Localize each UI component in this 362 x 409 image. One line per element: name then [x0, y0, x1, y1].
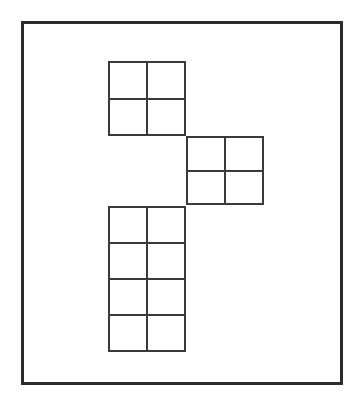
grid-cell [188, 172, 226, 206]
grid-cell [226, 138, 264, 172]
grid-cell [110, 280, 148, 316]
grid-cell [148, 100, 186, 137]
bottom-column-block [108, 206, 186, 352]
grid-cell [188, 138, 226, 172]
grid-cell [148, 244, 186, 280]
grid-cell [110, 100, 148, 137]
grid-cell [110, 208, 148, 244]
top-square-block [108, 61, 186, 136]
grid-cell [148, 280, 186, 316]
grid-cell [148, 208, 186, 244]
grid-cell [110, 316, 148, 352]
grid-cell [110, 63, 148, 100]
grid-cell [148, 63, 186, 100]
figure-canvas [0, 0, 362, 409]
middle-square-block [186, 136, 264, 205]
grid-cell [226, 172, 264, 206]
grid-cell [110, 244, 148, 280]
grid-cell [148, 316, 186, 352]
